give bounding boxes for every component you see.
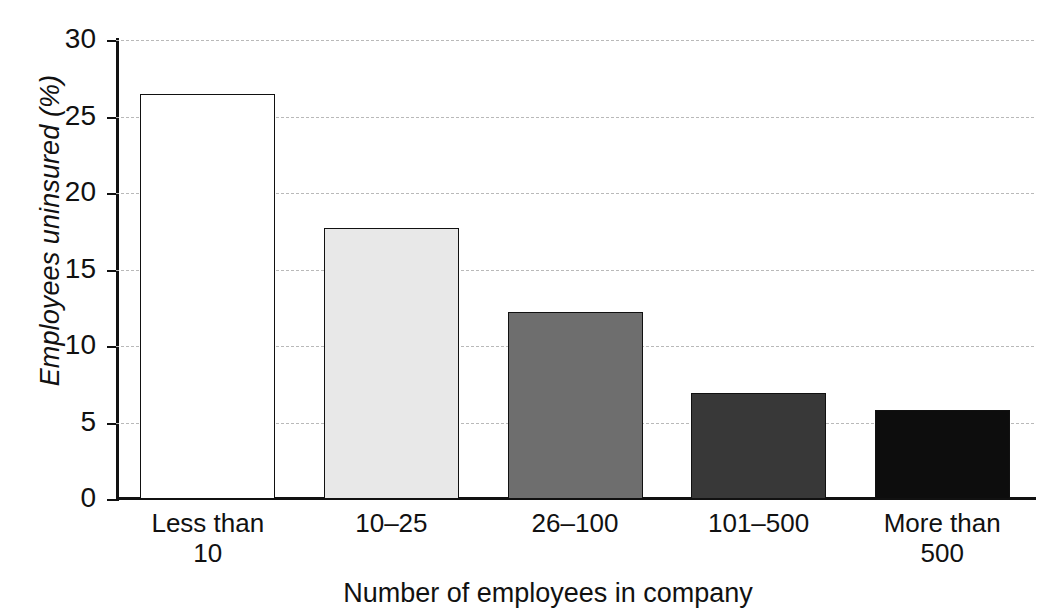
x-tick-label-line: 10–25 (300, 508, 484, 538)
bar (140, 94, 275, 499)
y-tick-label: 10 (8, 331, 96, 359)
y-tick-mark (107, 346, 116, 348)
bar-chart-figure: Employees uninsured (%) 051015202530 Num… (0, 0, 1040, 615)
x-tick-label: 10–25 (300, 508, 484, 538)
x-tick-label-line: 26–100 (483, 508, 667, 538)
bar (324, 228, 459, 499)
y-tick-mark (107, 270, 116, 272)
x-tick-label: 26–100 (483, 508, 667, 538)
bar (508, 312, 643, 499)
y-tick-label: 0 (8, 484, 96, 512)
y-tick-mark (107, 423, 116, 425)
x-tick-label: More than500 (850, 508, 1034, 569)
bar (875, 410, 1010, 499)
x-axis-title-wrap: Number of employees in company (0, 578, 1040, 609)
y-axis-title: Employees uninsured (%) (35, 1, 66, 461)
x-tick-label: 101–500 (667, 508, 851, 538)
plot-area: 051015202530 (116, 40, 1034, 499)
x-tick-label: Less than10 (116, 508, 300, 569)
gridline (116, 40, 1034, 41)
x-tick-label-line: 101–500 (667, 508, 851, 538)
x-tick-label-line: Less than (116, 508, 300, 538)
x-tick-label-line: More than (850, 508, 1034, 538)
y-tick-mark (107, 40, 116, 42)
y-tick-mark (107, 499, 116, 501)
y-tick-label: 15 (8, 255, 96, 283)
y-tick-label: 30 (8, 25, 96, 53)
x-tick-label-line: 10 (116, 538, 300, 568)
y-tick-label: 5 (8, 408, 96, 436)
y-tick-label: 20 (8, 178, 96, 206)
bar (691, 393, 826, 499)
y-tick-mark (107, 117, 116, 119)
y-tick-label: 25 (8, 102, 96, 130)
x-axis-title: Number of employees in company (343, 578, 753, 609)
x-tick-label-line: 500 (850, 538, 1034, 568)
y-tick-mark (107, 193, 116, 195)
